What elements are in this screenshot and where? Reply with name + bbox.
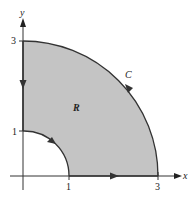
region-r bbox=[23, 41, 158, 176]
curve-label: C bbox=[125, 69, 132, 80]
y-tick-label-1: 1 bbox=[12, 126, 17, 137]
y-axis-label: y bbox=[19, 7, 25, 18]
annulus-diagram: y x 3 1 1 3 R C bbox=[0, 0, 191, 205]
x-axis-label: x bbox=[182, 170, 188, 181]
x-axis-arrow-icon bbox=[174, 173, 182, 179]
y-axis-arrow-icon bbox=[20, 18, 26, 27]
y-tick-label-3: 3 bbox=[11, 35, 16, 46]
x-tick-label-1: 1 bbox=[66, 181, 71, 192]
x-tick-label-3: 3 bbox=[155, 181, 160, 192]
region-label: R bbox=[72, 102, 80, 113]
